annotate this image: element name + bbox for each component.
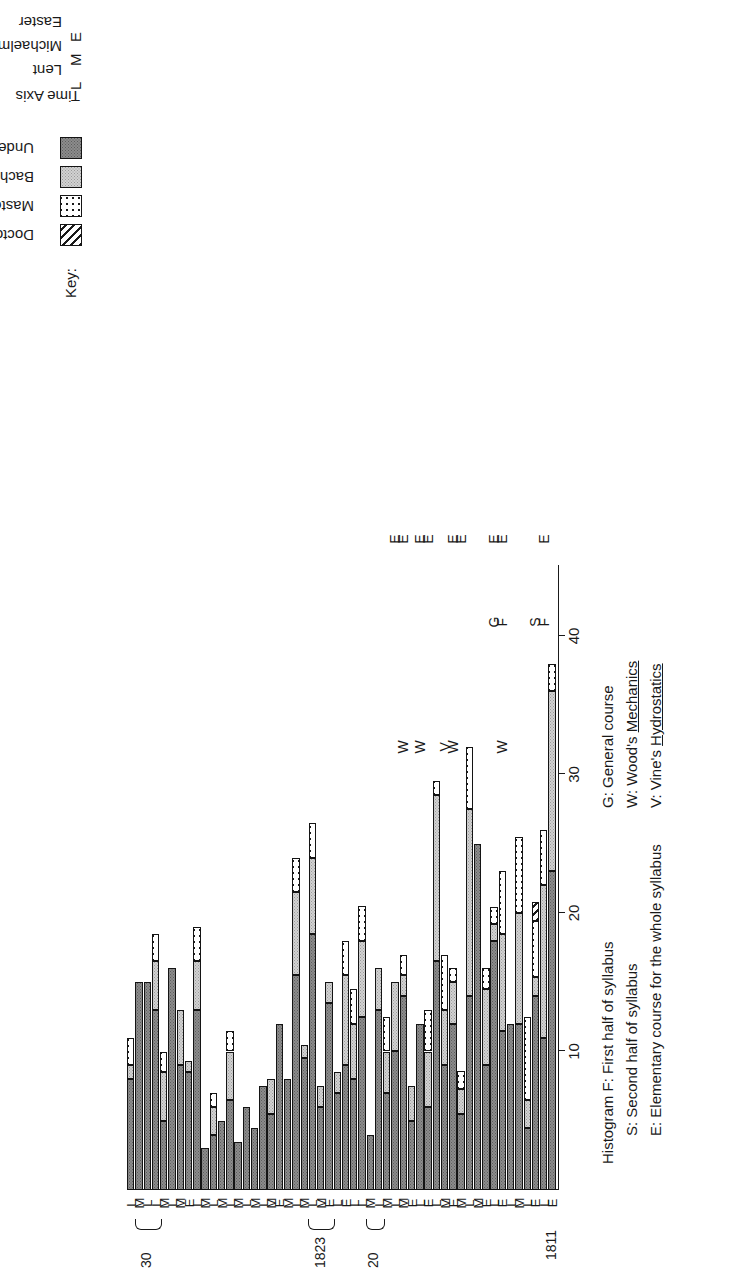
time-code-M: M (68, 54, 83, 67)
bar-segment-masters (532, 921, 539, 976)
bar-segment-undergraduates (342, 1065, 349, 1190)
bar-segment-masters (540, 830, 547, 885)
bar-segment-undergraduates (507, 1024, 514, 1190)
legend-label-bachelors: Bachelors (0, 170, 34, 185)
bar-segment-undergraduates (524, 1128, 531, 1190)
bar-segment-masters (193, 927, 200, 962)
bar-annotation: V (437, 742, 452, 751)
bar-segment-undergraduates (358, 1017, 365, 1190)
bar-annotation: E (536, 534, 551, 543)
bar-segment-undergraduates (168, 968, 175, 1190)
bar-segment-masters (466, 747, 473, 809)
legend-label-undergraduates: Undergraduates (0, 141, 34, 156)
bar-segment-bachelors (499, 934, 506, 1031)
bar-annotation: W (412, 740, 427, 753)
bar-segment-bachelors (226, 1052, 233, 1100)
bar-segment-bachelors (424, 1052, 431, 1107)
bar-segment-undergraduates (375, 1010, 382, 1190)
bar-segment-bachelors (400, 975, 407, 996)
bar-segment-undergraduates (325, 1003, 332, 1190)
chart-plot-area: 10203040 ELELMLELEMLMEMLELEMLMLMLLELEMLM… (128, 550, 558, 1190)
bar-segment-masters (400, 955, 407, 976)
bar-segment-undergraduates (367, 1135, 374, 1190)
time-code-E: E (68, 32, 83, 42)
year-label: 1823 (313, 1237, 328, 1268)
bar-segment-bachelors (532, 977, 539, 996)
bar-segment-undergraduates (408, 1121, 415, 1190)
bar-segment-doctors (532, 902, 539, 921)
bar-segment-undergraduates (284, 1079, 291, 1190)
bar-segment-undergraduates (127, 1079, 134, 1190)
bar-segment-masters (226, 1031, 233, 1052)
bar-segment-masters (210, 1093, 217, 1107)
axis-tick (558, 912, 565, 913)
bar-segment-masters (309, 823, 316, 858)
bar-segment-masters (449, 968, 456, 982)
bar-segment-undergraduates (267, 1114, 274, 1190)
bar-segment-bachelors (540, 885, 547, 1037)
bar-segment-undergraduates (160, 1121, 167, 1190)
bar-segment-bachelors (210, 1107, 217, 1135)
bar-segment-undergraduates (309, 934, 316, 1190)
bar-segment-undergraduates (218, 1121, 225, 1190)
bar-segment-masters (524, 1017, 531, 1100)
bar-segment-bachelors (334, 1072, 341, 1093)
bar-segment-undergraduates (416, 1024, 423, 1190)
bar-segment-undergraduates (234, 1142, 241, 1190)
bar-segment-bachelors (177, 1010, 184, 1065)
bar-segment-masters (152, 934, 159, 962)
bar-segment-undergraduates (424, 1107, 431, 1190)
bar-segment-bachelors (482, 989, 489, 1065)
bar-segment-undergraduates (317, 1107, 324, 1190)
bar-segment-masters (482, 968, 489, 989)
legend-swatch-doctors (60, 224, 82, 246)
footnote-right: V: Vine's Hydrostatics (648, 663, 663, 808)
axis-tick-label: 10 (566, 1043, 581, 1060)
footnote-title: Hydrostatics (647, 663, 664, 746)
bar-segment-masters (424, 1010, 431, 1052)
bar-segment-bachelors (358, 941, 365, 1017)
axis-tick (558, 635, 565, 636)
time-label-L: Lent (33, 63, 62, 78)
legend-title-text: Key: (62, 268, 79, 298)
bar-segment-undergraduates (532, 996, 539, 1190)
footnote-left: S: Second half of syllabus (624, 963, 639, 1136)
bar-segment-bachelors (408, 1086, 415, 1121)
bar-segment-undergraduates (499, 1031, 506, 1190)
bar-segment-undergraduates (449, 1024, 456, 1190)
bar-segment-undergraduates (292, 975, 299, 1190)
bar-segment-masters (548, 664, 555, 692)
bar-segment-masters (342, 941, 349, 976)
footnote-right: G: General course (600, 685, 615, 808)
bar-segment-bachelors (127, 1065, 134, 1079)
bar-annotation: E (487, 534, 502, 543)
bar-segment-undergraduates (482, 1065, 489, 1190)
bar-segment-undergraduates (177, 1065, 184, 1190)
footnote-text: G: General course (599, 685, 616, 808)
bar-annotation: E (388, 534, 403, 543)
bar-segment-bachelors (548, 691, 555, 871)
bar-segment-bachelors (292, 892, 299, 975)
bar-segment-bachelors (524, 1100, 531, 1128)
bar-segment-undergraduates (334, 1093, 341, 1190)
bar-segment-undergraduates (251, 1128, 258, 1190)
bar-segment-bachelors (466, 809, 473, 996)
year-brace (308, 1219, 335, 1230)
bar-segment-undergraduates (152, 1010, 159, 1190)
bar-segment-bachelors (490, 924, 497, 941)
bar-segment-bachelors (267, 1079, 274, 1114)
bar-segment-bachelors (325, 982, 332, 1003)
year-brace (135, 1219, 162, 1230)
bar-annotation: E (412, 534, 427, 543)
legend-label-doctors: Doctors (0, 228, 34, 243)
bar-segment-undergraduates (457, 1114, 464, 1190)
bar-segment-masters (292, 858, 299, 893)
bar-segment-undergraduates (515, 1024, 522, 1190)
bar-segment-masters (160, 1052, 167, 1073)
bar-segment-masters (383, 1017, 390, 1052)
time-code-L: L (68, 82, 83, 90)
bar-segment-undergraduates (391, 1052, 398, 1191)
bar-segment-undergraduates (193, 1010, 200, 1190)
bar-segment-undergraduates (548, 871, 555, 1190)
bar-segment-masters (350, 989, 357, 1024)
